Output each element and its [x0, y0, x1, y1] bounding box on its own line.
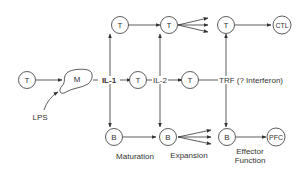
node-t-mid1-label: T: [136, 76, 141, 85]
edge-top-expand-a: [178, 18, 208, 25]
node-t-input-label: T: [25, 76, 30, 85]
node-macrophage-label: M: [74, 75, 81, 84]
node-t-top3-label: T: [224, 21, 229, 30]
node-b3-label: B: [224, 133, 229, 142]
expansion-label: Expansion: [170, 151, 207, 160]
node-ctl-label: CTL: [275, 22, 288, 29]
immune-pathway-diagram: T M T T T T T CTL B B B PFC IL-1 IL-2 TR…: [0, 0, 298, 169]
node-pfc-label: PFC: [269, 134, 283, 141]
edge-bot-expand-a: [178, 130, 211, 137]
lps-label: LPS: [32, 113, 47, 122]
node-b2-label: B: [165, 133, 170, 142]
edge-top-expand-c: [178, 25, 208, 32]
node-b1-label: B: [111, 133, 116, 142]
edge-lps-to-m: [44, 92, 58, 110]
il1-label: IL-1: [102, 76, 117, 85]
maturation-label: Maturation: [116, 152, 154, 161]
effector-label-line2: Function: [235, 156, 266, 165]
edge-bot-expand-c: [178, 137, 211, 144]
node-t-top1-label: T: [118, 21, 123, 30]
effector-label-line1: Effector: [236, 147, 264, 156]
node-t-top2-label: T: [167, 21, 172, 30]
node-t-mid2-label: T: [188, 76, 193, 85]
il2-label: IL-2: [153, 76, 167, 85]
trf-label: TRF (? Interferon): [219, 76, 283, 85]
